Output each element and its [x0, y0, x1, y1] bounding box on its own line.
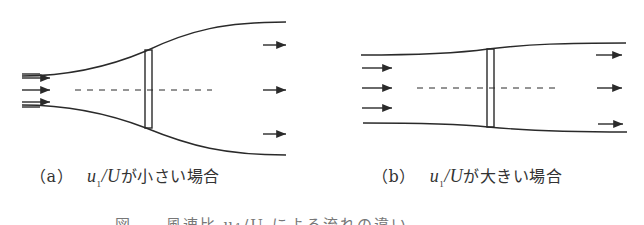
- panel-a-text: が小さい場合: [121, 167, 220, 186]
- panel-b-text: が大きい場合: [463, 167, 562, 186]
- panel-b-diagram: [361, 43, 627, 132]
- velocity-symbol: u1/U: [87, 166, 121, 186]
- stream-tube-lower: [363, 123, 627, 132]
- panel-b-caption: （b）u1/Uが大きい場合: [372, 163, 562, 189]
- panel-b-label: （b）: [372, 167, 416, 186]
- panel-a-diagram: [22, 22, 286, 155]
- figure-caption: 図 . . 風速比 u₁/U による流れの違い: [115, 213, 408, 225]
- actuator-disk: [145, 50, 152, 128]
- panel-a-caption: （a）u1/Uが小さい場合: [30, 163, 220, 189]
- velocity-symbol: u1/U: [430, 166, 464, 186]
- stream-tube-lower: [22, 105, 286, 155]
- panel-a-label: （a）: [30, 167, 73, 186]
- stream-tube-upper: [22, 22, 286, 76]
